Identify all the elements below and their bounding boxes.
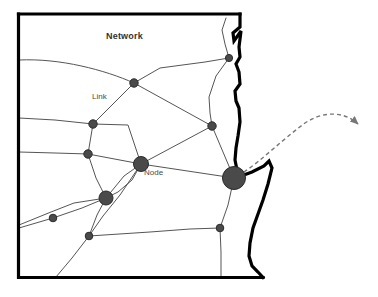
node-lower-left [49, 214, 57, 222]
node-center-hub [134, 157, 149, 172]
network-map-canvas [0, 0, 378, 297]
node-right-mid [208, 122, 216, 130]
node-upper-right [225, 54, 232, 61]
node-left-mid [84, 150, 92, 158]
node-lower-center [85, 232, 93, 240]
node-lower-right [216, 224, 224, 232]
node-left-upper [89, 120, 97, 128]
node-upper-center [130, 79, 138, 87]
node-major-coastal [223, 167, 246, 190]
node-lower-hub [99, 191, 113, 205]
network-map-figure: Network Link Node [0, 0, 378, 297]
figure-background [0, 0, 378, 297]
